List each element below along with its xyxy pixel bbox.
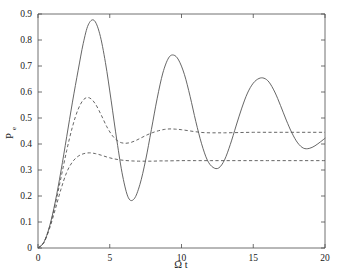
curve-strong-damping-dashed (38, 153, 325, 248)
y-tick-label: 0.9 (20, 9, 32, 19)
y-axis-tick-labels: 00.10.20.30.40.50.60.70.80.9 (20, 9, 32, 253)
x-tick-label: 20 (320, 253, 330, 263)
y-tick-label: 0.1 (20, 217, 32, 227)
y-axis-ticks (38, 14, 325, 248)
y-tick-label: 0.6 (20, 87, 32, 97)
y-tick-label: 0 (27, 243, 32, 253)
data-curves (38, 20, 325, 248)
y-axis-label-subscript: e (10, 127, 18, 130)
y-tick-label: 0.4 (20, 139, 32, 149)
rabi-oscillation-chart: 00.10.20.30.40.50.60.70.80.9 05101520 P … (0, 0, 339, 280)
x-tick-label: 5 (107, 253, 112, 263)
figure-container: 00.10.20.30.40.50.60.70.80.9 05101520 P … (0, 0, 339, 280)
curve-moderate-damping-dashed (38, 98, 325, 248)
x-axis-label: Ω t (174, 259, 187, 270)
y-axis-label-group: P e (4, 127, 18, 139)
x-tick-label: 0 (36, 253, 41, 263)
y-tick-label: 0.5 (20, 113, 32, 123)
curve-undamped-rabi-solid (38, 20, 325, 248)
y-axis-label: P (4, 133, 15, 139)
y-tick-label: 0.2 (20, 191, 32, 201)
x-tick-label: 15 (249, 253, 259, 263)
y-tick-label: 0.8 (20, 35, 32, 45)
plot-frame (38, 14, 325, 248)
y-tick-label: 0.3 (20, 165, 32, 175)
x-axis-ticks (38, 14, 325, 248)
y-tick-label: 0.7 (20, 61, 32, 71)
